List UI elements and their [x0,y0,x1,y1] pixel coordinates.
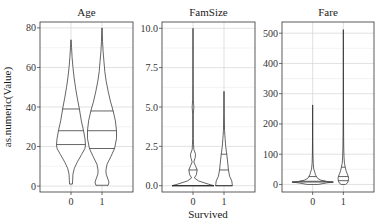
x-tick-label: 1 [100,196,105,207]
y-tick-label: 80 [26,22,36,33]
y-tick-label: 20 [26,141,36,152]
facet-age: 02040608001Age [26,6,133,207]
y-tick-label: 7.5 [146,62,159,73]
facet-fare: 010020030040050001Fare [263,6,374,207]
x-axis-title: Survived [188,208,228,220]
y-tick-label: 400 [263,58,278,69]
facet-famsize: 0.02.55.07.510.001FamSize [141,6,256,207]
y-tick-label: 100 [263,149,278,160]
y-tick-label: 500 [263,28,278,39]
facet-title: Age [77,6,95,18]
panel-background [282,22,374,192]
y-tick-label: 300 [263,88,278,99]
y-tick-label: 10.0 [141,23,159,34]
y-tick-label: 5.0 [146,102,159,113]
x-tick-label: 0 [310,196,315,207]
y-tick-label: 2.5 [146,141,159,152]
x-tick-label: 0 [191,196,196,207]
y-tick-label: 40 [26,102,36,113]
y-tick-label: 0.0 [146,180,159,191]
violin-chart: 02040608001Age0.02.55.07.510.001FamSize0… [0,0,381,224]
y-tick-label: 60 [26,62,36,73]
x-tick-label: 0 [69,196,74,207]
x-tick-label: 1 [222,196,227,207]
y-tick-label: 200 [263,118,278,129]
y-tick-label: 0 [273,179,278,190]
facet-title: FamSize [189,6,228,18]
y-tick-label: 0 [31,181,36,192]
x-tick-label: 1 [341,196,346,207]
y-axis-title: as.numeric(Value) [1,67,14,148]
facet-title: Fare [318,6,338,18]
